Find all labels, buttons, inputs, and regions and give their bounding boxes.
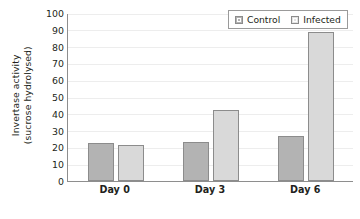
- x-axis-tick-label: Day 3: [162, 184, 257, 196]
- y-axis-tick-label: 100: [38, 9, 64, 19]
- bar-control-day-6: [278, 136, 304, 181]
- bar-infected-day-0: [118, 145, 144, 181]
- y-axis-tick-label: 70: [38, 59, 64, 69]
- bar-control-day-3: [183, 142, 209, 181]
- y-axis-tick-label: 90: [38, 26, 64, 36]
- y-axis-title-line1: Invertase activity: [10, 46, 22, 144]
- x-axis-tick-labels: Day 0Day 3Day 6: [67, 184, 353, 206]
- legend-swatch-infected-icon: [291, 16, 299, 24]
- x-axis-tick-label: Day 0: [67, 184, 162, 196]
- y-axis-tick-label: 80: [38, 43, 64, 53]
- y-axis-tick-label: 30: [38, 127, 64, 137]
- legend-item-infected: Infected: [291, 15, 341, 25]
- legend-label-control: Control: [247, 15, 280, 25]
- legend-label-infected: Infected: [303, 15, 341, 25]
- legend: Control Infected: [228, 10, 348, 29]
- bar-chart: Invertase activity (sucrose hydrolysed) …: [0, 0, 360, 219]
- legend-item-control: Control: [235, 15, 280, 25]
- x-axis-tick-label: Day 6: [258, 184, 353, 196]
- y-axis-tick-label: 20: [38, 143, 64, 153]
- y-axis-tick-label: 0: [38, 177, 64, 187]
- plot-area: [67, 14, 353, 182]
- y-axis-tick-label: 50: [38, 93, 64, 103]
- bar-infected-day-3: [213, 110, 239, 181]
- y-axis-title-line2: (sucrose hydrolysed): [22, 46, 34, 144]
- bar-control-day-0: [88, 143, 114, 181]
- y-axis-tick-label: 40: [38, 110, 64, 120]
- y-axis-tick-label: 10: [38, 160, 64, 170]
- y-axis-tick-label: 60: [38, 76, 64, 86]
- bars-layer: [68, 14, 353, 181]
- y-axis-tick-labels: 0102030405060708090100: [38, 0, 64, 190]
- bar-infected-day-6: [308, 32, 334, 181]
- legend-swatch-control-icon: [235, 16, 243, 24]
